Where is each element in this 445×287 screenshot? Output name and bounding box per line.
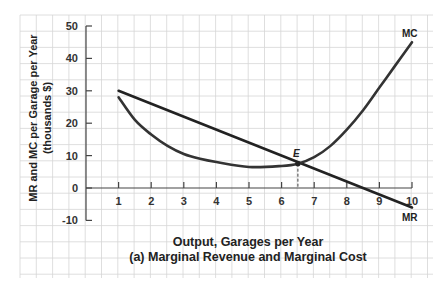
y-tick-label: -10 [62,214,78,226]
x-tick-label: 1 [116,195,122,207]
marginal-revenue-cost-chart: -100102030405012345678910 MR and MC per … [0,0,445,287]
x-tick-label: 2 [148,195,154,207]
y-tick-label: 30 [66,85,78,97]
curves [119,42,412,207]
x-tick-label: 5 [246,195,252,207]
mc-curve-label: MC [402,28,418,39]
x-tick-label: 8 [344,195,350,207]
x-axis-title: Output, Garages per Year [173,235,324,249]
x-tick-label: 7 [311,195,317,207]
x-tick-label: 4 [213,195,220,207]
y-tick-label: 0 [72,182,78,194]
mr-curve-label: MR [402,212,418,223]
tick-labels: -100102030405012345678910 [62,20,418,226]
x-tick-label: 6 [279,195,285,207]
equilibrium-point-label: E [293,148,300,159]
y-tick-label: 50 [66,20,78,32]
y-tick-label: 10 [66,150,78,162]
y-tick-label: 20 [66,117,78,129]
x-tick-label: 3 [181,195,187,207]
y-axis-title: MR and MC per Garage per Year [27,34,39,202]
y-tick-label: 40 [66,52,78,64]
x-tick-label: 9 [376,195,382,207]
axes [86,26,412,220]
mr-curve [119,91,412,208]
equilibrium-point [295,161,300,166]
chart-caption: (a) Marginal Revenue and Marginal Cost [129,250,367,264]
y-axis-subtitle: (thousands $) [41,82,53,154]
